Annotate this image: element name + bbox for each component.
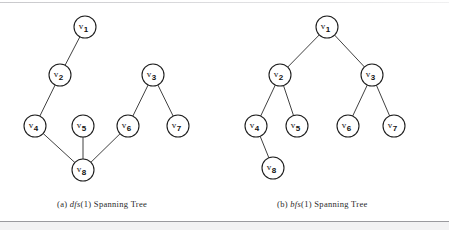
figure-page: v1v2v3v4v5v6v7v8v1v2v3v4v5v6v7v8 (a) dfs… (0, 0, 449, 230)
graph-node: v3 (361, 64, 383, 86)
tree-edge (40, 85, 55, 116)
node-subscript: 1 (326, 25, 331, 34)
caption-panel-a: (a) dfs(1) Spanning Tree (57, 199, 147, 209)
page-bottom-band (0, 222, 449, 230)
graph-node: v1 (316, 16, 338, 38)
node-subscript: 6 (347, 124, 352, 133)
graph-node: v6 (337, 115, 359, 137)
tree-edge (91, 134, 120, 163)
node-subscript: 4 (34, 124, 39, 133)
graph-node: v7 (167, 115, 189, 137)
caption-b-algorithm: bfs (290, 199, 301, 209)
node-subscript: 1 (84, 25, 89, 34)
tree-edge (353, 85, 368, 116)
graph-node: v2 (49, 64, 71, 86)
node-subscript: 2 (59, 73, 64, 82)
tree-edge (65, 37, 80, 65)
graph-node: v8 (262, 157, 284, 179)
node-subscript: 7 (393, 124, 398, 133)
spanning-tree-diagram: v1v2v3v4v5v6v7v8v1v2v3v4v5v6v7v8 (0, 0, 449, 230)
caption-a-argument: (1) (81, 199, 92, 209)
panel-a: v1v2v3v4v5v6v7v8 (24, 16, 189, 181)
tree-edge (335, 35, 365, 67)
node-subscript: 5 (296, 124, 301, 133)
node-subscript: 6 (127, 124, 132, 133)
tree-edge (288, 35, 320, 67)
graph-node: v6 (117, 115, 139, 137)
caption-a-prefix: (a) (57, 199, 67, 209)
tree-edge (283, 85, 293, 115)
graph-node: v4 (24, 115, 46, 137)
caption-a-algorithm: dfs (70, 199, 81, 209)
caption-a-suffix: Spanning Tree (94, 199, 147, 209)
graph-node: v8 (72, 159, 94, 181)
caption-panel-b: (b) bfs(1) Spanning Tree (277, 199, 368, 209)
panel-b: v1v2v3v4v5v6v7v8 (245, 16, 405, 179)
graph-node: v4 (245, 115, 267, 137)
node-subscript: 4 (255, 124, 260, 133)
node-subscript: 3 (371, 73, 376, 82)
graph-node: v3 (142, 64, 164, 86)
tree-edge (158, 85, 173, 116)
tree-edge (43, 133, 75, 162)
tree-edge (376, 85, 389, 116)
graph-node: v7 (383, 115, 405, 137)
tree-edge (261, 85, 276, 116)
node-subscript: 2 (279, 73, 284, 82)
caption-b-prefix: (b) (277, 199, 288, 209)
node-subscript: 8 (272, 166, 277, 175)
node-subscript: 8 (82, 168, 87, 177)
tree-edge (260, 136, 269, 158)
graph-node: v2 (269, 64, 291, 86)
graph-node: v1 (74, 16, 96, 38)
caption-b-argument: (1) (301, 199, 312, 209)
graph-node: v5 (286, 115, 308, 137)
graph-node: v5 (72, 115, 94, 137)
tree-edge (133, 85, 148, 116)
node-subscript: 3 (152, 73, 157, 82)
node-subscript: 7 (177, 124, 182, 133)
node-subscript: 5 (82, 124, 87, 133)
caption-b-suffix: Spanning Tree (314, 199, 367, 209)
